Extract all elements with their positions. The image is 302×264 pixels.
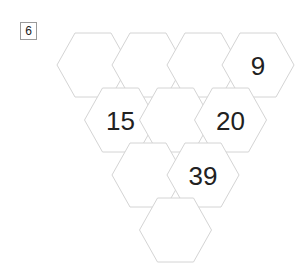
hex-outline[interactable] (140, 198, 212, 262)
hex-cell[interactable]: 20 (195, 88, 267, 152)
hex-cell[interactable]: 39 (167, 143, 239, 207)
hex-value-label: 39 (189, 161, 218, 191)
hex-value-label: 15 (106, 106, 135, 136)
hex-value-label: 20 (216, 106, 245, 136)
page-root: 6 9152039 (0, 0, 302, 264)
hex-cell[interactable] (140, 198, 212, 262)
hex-cell[interactable]: 9 (222, 33, 294, 97)
hexagon-puzzle-board: 9152039 (0, 0, 302, 264)
hex-value-label: 9 (251, 51, 265, 81)
hexagon-grid-svg: 9152039 (0, 0, 302, 264)
